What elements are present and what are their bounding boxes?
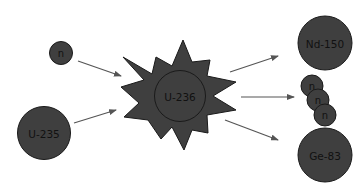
- product-neutrons: n n n: [301, 75, 336, 126]
- reactant-neutron-label: n: [58, 48, 64, 59]
- fission-diagram: n U-235 U-236 Nd-150 n n n Ge-83: [0, 0, 358, 192]
- product-nd150: Nd-150: [298, 16, 352, 70]
- product-neutron-3-label: n: [322, 110, 328, 121]
- product-ge83-label: Ge-83: [309, 150, 341, 162]
- product-nd150-label: Nd-150: [306, 38, 344, 50]
- intermediate-u236-label: U-236: [164, 91, 196, 103]
- arrow-u236-to-ge83: [225, 120, 278, 140]
- arrow-u236-to-nd150: [230, 56, 278, 72]
- product-ge83: Ge-83: [298, 128, 352, 182]
- arrow-neutron-to-u236: [78, 61, 121, 76]
- reactant-u235-label: U-235: [28, 128, 60, 140]
- arrow-u235-to-u236: [74, 110, 116, 123]
- reactant-u235: U-235: [18, 107, 71, 160]
- intermediate-u236: U-236: [121, 40, 236, 150]
- product-neutron-2-label: n: [315, 95, 321, 106]
- reactant-neutron: n: [50, 42, 73, 65]
